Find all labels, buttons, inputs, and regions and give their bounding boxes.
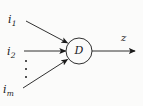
input-label-im-subscript: m bbox=[7, 89, 14, 98]
input-label-im: im bbox=[3, 84, 14, 95]
output-label-z: z bbox=[121, 33, 126, 43]
input-label-i1: i1 bbox=[8, 14, 16, 25]
node-label-d: D bbox=[66, 44, 92, 57]
input-arrow-i1 bbox=[26, 21, 68, 43]
input-label-i1-base: i bbox=[8, 13, 12, 26]
input-label-im-base: i bbox=[3, 83, 7, 96]
input-arrow-im bbox=[23, 60, 68, 89]
neuron-node-diagram: D i1 i2 im z bbox=[0, 0, 143, 106]
input-label-i2: i2 bbox=[7, 46, 15, 57]
input-label-i2-base: i bbox=[7, 45, 11, 58]
input-label-i2-subscript: 2 bbox=[11, 51, 16, 60]
input-label-i1-subscript: 1 bbox=[12, 19, 17, 28]
